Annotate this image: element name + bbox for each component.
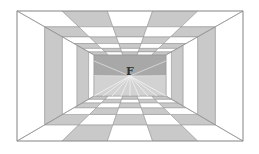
ceiling-tile	[120, 48, 139, 52]
left-wall-panel	[89, 52, 94, 99]
right-wall-panel	[198, 27, 216, 125]
tunnel-figure: F	[0, 0, 259, 154]
floor-tile	[105, 96, 123, 99]
ceiling-tile	[101, 48, 121, 52]
floor-tile	[107, 125, 152, 141]
left-wall-panel	[62, 37, 77, 114]
left-wall-panel	[77, 45, 89, 106]
ceiling-tile	[119, 44, 141, 49]
floor-tile	[101, 99, 121, 103]
left-wall-panel	[17, 11, 45, 141]
left-wall-panel	[45, 27, 63, 125]
right-wall-panel	[166, 52, 171, 99]
floor-tile	[119, 103, 141, 108]
floor-tile	[122, 96, 139, 99]
tunnel-illustration: F	[0, 0, 259, 154]
right-wall-panel	[183, 37, 198, 114]
floor-tile	[120, 99, 139, 103]
ceiling-tile	[107, 11, 152, 27]
right-wall-panel	[171, 45, 183, 106]
center-label: F	[126, 65, 134, 78]
ceiling-tile	[116, 37, 143, 44]
right-wall-panel	[215, 11, 243, 141]
ceiling-tile	[122, 52, 139, 55]
ceiling-tile	[105, 52, 123, 55]
floor-tile	[113, 114, 147, 124]
floor-tile	[116, 108, 143, 115]
ceiling-tile	[113, 27, 147, 37]
